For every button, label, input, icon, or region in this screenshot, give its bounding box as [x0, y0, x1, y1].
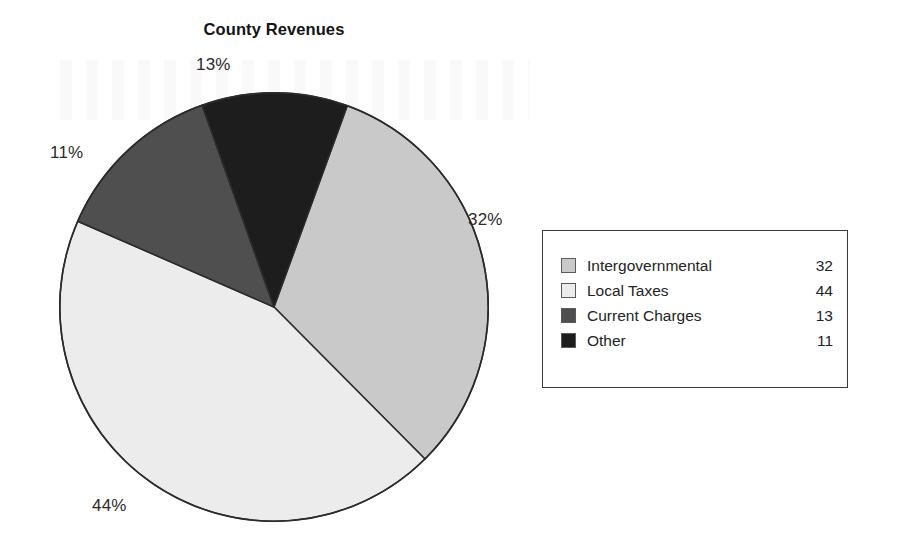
legend-swatch-icon: [561, 333, 576, 348]
pie-svg: [59, 92, 489, 522]
legend-swatch-icon: [561, 283, 576, 298]
legend-row[interactable]: Other11: [561, 328, 833, 353]
legend-row[interactable]: Intergovernmental32: [561, 253, 833, 278]
slice-percent-intergovernmental: 32%: [468, 210, 503, 230]
slice-percent-local-taxes: 44%: [92, 496, 127, 516]
slice-percent-current-charges: 13%: [196, 55, 231, 75]
chart-title: County Revenues: [0, 20, 548, 39]
legend-value: 13: [799, 307, 833, 325]
pie-chart-figure: County Revenues 32% 44% 13% 11% Intergov…: [0, 0, 905, 559]
legend: Intergovernmental32Local Taxes44Current …: [542, 230, 848, 388]
legend-row[interactable]: Current Charges13: [561, 303, 833, 328]
legend-value: 44: [799, 282, 833, 300]
legend-swatch-icon: [561, 308, 576, 323]
pie-graphic: [59, 92, 489, 522]
legend-label: Current Charges: [587, 307, 799, 325]
legend-label: Other: [587, 332, 799, 350]
legend-value: 32: [799, 257, 833, 275]
legend-swatch-icon: [561, 258, 576, 273]
slice-percent-other: 11%: [50, 143, 83, 163]
legend-label: Local Taxes: [587, 282, 799, 300]
legend-label: Intergovernmental: [587, 257, 799, 275]
legend-rows: Intergovernmental32Local Taxes44Current …: [561, 253, 833, 353]
legend-value: 11: [799, 332, 833, 350]
legend-row[interactable]: Local Taxes44: [561, 278, 833, 303]
